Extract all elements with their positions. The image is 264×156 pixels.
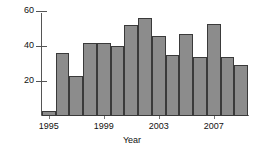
bar xyxy=(83,43,97,116)
x-axis-tick-label: 1999 xyxy=(94,121,114,131)
bar xyxy=(138,18,152,116)
bar xyxy=(179,34,193,116)
x-axis-title: Year xyxy=(0,135,264,145)
y-axis-tick-label: 60 xyxy=(0,6,34,15)
bar xyxy=(221,57,235,116)
bar-chart-figure: 204060 1995199920032007 Year xyxy=(0,0,264,156)
x-axis-tick-mark xyxy=(104,116,105,119)
bar xyxy=(97,43,111,116)
bar xyxy=(166,55,180,116)
x-axis-tick-label: 2003 xyxy=(149,121,169,131)
x-axis-tick-label: 2007 xyxy=(204,121,224,131)
bar xyxy=(69,76,83,116)
bar xyxy=(124,25,138,116)
bar xyxy=(152,36,166,116)
x-axis-tick-mark xyxy=(49,116,50,119)
bar-series xyxy=(42,8,248,116)
x-axis-tick-mark xyxy=(159,116,160,119)
x-axis-tick-label: 1995 xyxy=(39,121,59,131)
y-axis-tick-label: 40 xyxy=(0,41,34,50)
bar xyxy=(207,24,221,116)
bar xyxy=(56,53,70,116)
x-axis-tick-mark xyxy=(214,116,215,119)
bar xyxy=(234,65,248,116)
bar xyxy=(111,46,125,116)
y-axis-tick-label: 20 xyxy=(0,76,34,85)
bar xyxy=(193,57,207,116)
